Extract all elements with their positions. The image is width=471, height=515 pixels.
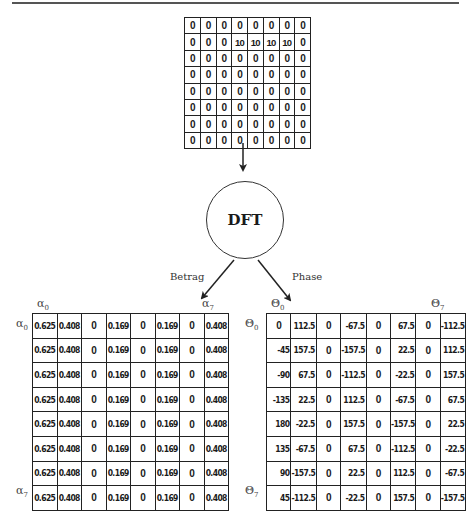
magnitude-col-first-label: α0 xyxy=(37,297,49,312)
phase-matrix-cell: -67.5 xyxy=(390,387,415,412)
phase-matrix-cell: 0 xyxy=(366,486,390,511)
phase-matrix-cell: 112.5 xyxy=(291,314,316,339)
phase-matrix-cell: 0 xyxy=(366,412,390,437)
magnitude-matrix-cell: 0.169 xyxy=(155,338,180,363)
magnitude-matrix-cell: 0.408 xyxy=(57,461,82,486)
magnitude-row-last-label: α7 xyxy=(16,484,28,499)
magnitude-matrix-cell: 0.169 xyxy=(155,314,180,339)
magnitude-matrix-cell: 0 xyxy=(82,387,107,412)
phase-matrix-cell: 45 xyxy=(267,486,291,511)
phase-matrix-cell: 0 xyxy=(316,436,340,461)
magnitude-col-last-label: α7 xyxy=(202,297,214,312)
magnitude-matrix-cell: 0 xyxy=(131,338,156,363)
phase-matrix-row: 90-157.5022.50112.50-67.5 xyxy=(267,461,466,486)
phase-branch-label: Phase xyxy=(292,271,322,282)
magnitude-matrix: 0.6250.40800.16900.16900.4080.6250.40800… xyxy=(32,313,229,511)
magnitude-matrix-cell: 0.408 xyxy=(204,461,229,486)
phase-matrix-cell: 157.5 xyxy=(390,486,415,511)
phase-matrix-cell: 112.5 xyxy=(440,338,465,363)
phase-matrix-cell: -67.5 xyxy=(341,314,366,339)
phase-matrix: 0112.50-67.5067.50-112.5-45157.50-157.50… xyxy=(266,313,466,511)
magnitude-matrix-cell: 0.408 xyxy=(204,412,229,437)
magnitude-matrix-cell: 0 xyxy=(82,461,107,486)
phase-matrix-row: -9067.50-112.50-22.50157.5 xyxy=(267,363,466,388)
phase-matrix-cell: 157.5 xyxy=(440,363,465,388)
phase-matrix-cell: -157.5 xyxy=(291,461,316,486)
magnitude-matrix-cell: 0.408 xyxy=(204,363,229,388)
phase-matrix-cell: 0 xyxy=(316,461,340,486)
magnitude-matrix-cell: 0 xyxy=(82,486,107,511)
phase-matrix-cell: 135 xyxy=(267,436,291,461)
phase-matrix-cell: 0 xyxy=(366,461,390,486)
magnitude-matrix-row: 0.6250.40800.16900.16900.408 xyxy=(33,363,229,388)
magnitude-matrix-cell: 0.625 xyxy=(33,412,58,437)
magnitude-matrix-cell: 0 xyxy=(180,486,205,511)
magnitude-matrix-cell: 0.625 xyxy=(33,314,58,339)
phase-row-last-label: Θ7 xyxy=(245,484,259,499)
magnitude-matrix-cell: 0.625 xyxy=(33,436,58,461)
phase-matrix-cell: -22.5 xyxy=(440,436,465,461)
phase-matrix-cell: 0 xyxy=(316,338,340,363)
phase-matrix-cell: -45 xyxy=(267,338,291,363)
phase-matrix-cell: -22.5 xyxy=(341,486,366,511)
magnitude-matrix-cell: 0 xyxy=(180,436,205,461)
magnitude-arrow-icon xyxy=(202,260,234,298)
phase-matrix-cell: 0 xyxy=(316,486,340,511)
phase-matrix-cell: 0 xyxy=(416,363,440,388)
magnitude-matrix-cell: 0.169 xyxy=(155,436,180,461)
phase-matrix-cell: 67.5 xyxy=(291,363,316,388)
phase-matrix-cell: -112.5 xyxy=(341,363,366,388)
magnitude-matrix-row: 0.6250.40800.16900.16900.408 xyxy=(33,412,229,437)
dft-node: DFT xyxy=(206,181,284,259)
phase-matrix-cell: 0 xyxy=(267,314,291,339)
dft-label: DFT xyxy=(228,211,263,229)
phase-col-first-label: Θ0 xyxy=(271,297,285,312)
magnitude-matrix-row: 0.6250.40800.16900.16900.408 xyxy=(33,461,229,486)
phase-matrix-cell: -67.5 xyxy=(440,461,465,486)
phase-matrix-cell: 0 xyxy=(416,412,440,437)
magnitude-matrix-row: 0.6250.40800.16900.16900.408 xyxy=(33,338,229,363)
phase-matrix-row: 135-67.5067.50-112.50-22.5 xyxy=(267,436,466,461)
phase-matrix-cell: 22.5 xyxy=(440,412,465,437)
phase-matrix-row: -13522.50112.50-67.5067.5 xyxy=(267,387,466,412)
magnitude-matrix-row: 0.6250.40800.16900.16900.408 xyxy=(33,314,229,339)
magnitude-matrix-cell: 0 xyxy=(82,338,107,363)
magnitude-matrix-cell: 0 xyxy=(180,461,205,486)
magnitude-matrix-cell: 0.408 xyxy=(57,338,82,363)
magnitude-matrix-cell: 0 xyxy=(180,387,205,412)
phase-matrix-cell: 22.5 xyxy=(291,387,316,412)
phase-matrix-cell: -157.5 xyxy=(440,486,465,511)
magnitude-matrix-cell: 0 xyxy=(131,412,156,437)
phase-matrix-cell: 0 xyxy=(366,314,390,339)
phase-col-last-label: Θ7 xyxy=(431,297,445,312)
phase-matrix-cell: 0 xyxy=(316,314,340,339)
phase-matrix-cell: 0 xyxy=(366,387,390,412)
magnitude-matrix-cell: 0 xyxy=(180,338,205,363)
magnitude-matrix-cell: 0.625 xyxy=(33,338,58,363)
phase-matrix-cell: 0 xyxy=(416,314,440,339)
magnitude-matrix-row: 0.6250.40800.16900.16900.408 xyxy=(33,387,229,412)
magnitude-matrix-cell: 0.625 xyxy=(33,486,58,511)
phase-matrix-cell: 0 xyxy=(416,338,440,363)
magnitude-matrix-cell: 0 xyxy=(131,461,156,486)
phase-matrix-cell: 0 xyxy=(366,338,390,363)
magnitude-matrix-cell: 0 xyxy=(180,314,205,339)
magnitude-matrix-cell: 0.169 xyxy=(106,412,131,437)
magnitude-matrix-cell: 0.408 xyxy=(204,314,229,339)
magnitude-matrix-cell: 0.408 xyxy=(57,412,82,437)
magnitude-matrix-cell: 0.408 xyxy=(57,486,82,511)
magnitude-matrix-cell: 0.408 xyxy=(204,387,229,412)
magnitude-matrix-cell: 0.169 xyxy=(106,461,131,486)
magnitude-matrix-cell: 0.408 xyxy=(57,436,82,461)
magnitude-matrix-cell: 0.169 xyxy=(106,387,131,412)
magnitude-matrix-cell: 0.169 xyxy=(155,461,180,486)
phase-row-first-label: Θ0 xyxy=(245,317,259,332)
phase-matrix-cell: 67.5 xyxy=(341,436,366,461)
phase-matrix-cell: 0 xyxy=(316,363,340,388)
magnitude-matrix-cell: 0.169 xyxy=(106,314,131,339)
phase-matrix-cell: -90 xyxy=(267,363,291,388)
phase-matrix-cell: -22.5 xyxy=(291,412,316,437)
magnitude-matrix-cell: 0 xyxy=(131,314,156,339)
phase-matrix-cell: -22.5 xyxy=(390,363,415,388)
phase-matrix-cell: -67.5 xyxy=(291,436,316,461)
